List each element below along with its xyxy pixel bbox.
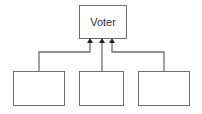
edge-child-1-to-voter — [39, 42, 90, 71]
child-node-3 — [138, 71, 190, 106]
voter-label: Voter — [80, 16, 126, 28]
child-node-2 — [79, 71, 124, 106]
child-node-1 — [13, 71, 65, 106]
voter-node: Voter — [79, 5, 127, 39]
edge-child-3-to-voter — [112, 42, 164, 71]
